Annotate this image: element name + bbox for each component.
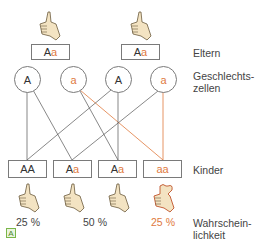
probability-aa: 25 % [143,216,183,228]
gamete-circle: A [14,66,41,93]
allele-recessive: a [73,163,79,175]
parent-genotype-box: Aa [31,44,70,60]
thumb-hitchhiker-icon [148,182,178,216]
gamete-circle: a [150,66,177,93]
gamete-circle: A [105,66,132,93]
allele-dominant: A [111,163,118,175]
allele-recessive: a [51,46,57,58]
thumb-straight-icon [125,10,155,44]
child-genotype-box: aa [143,160,182,178]
thumb-straight-icon [34,10,64,44]
figure-badge: A [6,228,16,238]
child-genotype-box: AA [8,160,47,178]
thumb-straight-icon [13,182,43,216]
label-gametes-line1: Geschlechts- [193,70,254,82]
allele-dominant: A [44,46,51,58]
gamete-allele: A [115,74,122,86]
probability-Aa: 50 % [75,216,115,228]
gamete-allele: A [24,74,31,86]
allele-dominant: A [28,163,35,175]
gamete-allele: a [70,74,76,86]
probability-AA: 25 % [8,216,48,228]
allele-recessive: a [118,163,124,175]
label-probability: Wahrschein- lichkeit [193,217,252,241]
label-gametes: Geschlechts- zellen [193,70,254,94]
thumb-straight-icon [58,182,88,216]
gamete-circle: a [60,66,87,93]
allele-dominant: A [66,163,73,175]
thumb-straight-icon [103,182,133,216]
allele-dominant: A [20,163,27,175]
child-genotype-box: Aa [98,160,137,178]
allele-dominant: A [134,46,141,58]
label-children: Kinder [193,164,223,176]
label-parents: Eltern [193,47,220,59]
allele-recessive: a [141,46,147,58]
parent-genotype-box: Aa [121,44,160,60]
label-probability-line1: Wahrschein- [193,217,252,229]
child-genotype-box: Aa [53,160,92,178]
label-probability-line2: lichkeit [193,229,252,241]
label-gametes-line2: zellen [193,82,254,94]
allele-recessive: a [163,163,169,175]
gamete-allele: a [160,74,166,86]
